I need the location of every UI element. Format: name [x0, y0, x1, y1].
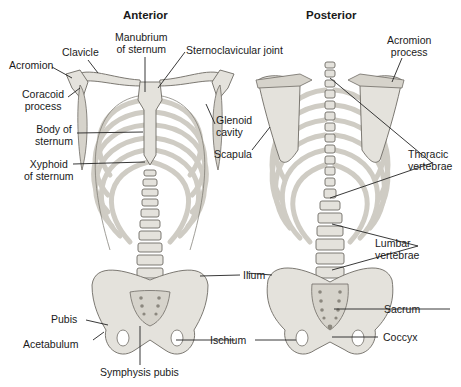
- label-body-sternum-line1: Body of: [35, 123, 73, 135]
- right-scapula: [360, 76, 402, 163]
- label-manubrium-line2: of sternum: [115, 43, 168, 55]
- label-thoracic-line2: vertebrae: [408, 160, 452, 172]
- label-acromion: Acromion: [9, 59, 53, 71]
- anterior-skeleton: [66, 70, 234, 354]
- label-scapula: Scapula: [214, 148, 252, 160]
- label-acromion-process-line1: Acromion: [387, 34, 431, 46]
- label-lumbar-line2: vertebrae: [375, 249, 419, 261]
- label-glenoid-line2: cavity: [216, 126, 252, 138]
- label-xyphoid-line2: of sternum: [24, 170, 74, 182]
- label-symphysis-pubis: Symphysis pubis: [100, 366, 179, 378]
- label-clavicle: Clavicle: [62, 46, 99, 58]
- label-lumbar-line1: Lumbar: [375, 237, 419, 249]
- label-glenoid-line1: Glenoid: [216, 114, 252, 126]
- label-xyphoid-line1: Xyphoid: [24, 158, 74, 170]
- left-scapula: [258, 76, 300, 163]
- anterior-spine: [137, 170, 163, 278]
- label-coccyx: Coccyx: [383, 331, 417, 343]
- label-xyphoid: Xyphoid of sternum: [24, 158, 74, 182]
- skeleton-illustration: [0, 0, 461, 387]
- label-ilium: Ilium: [243, 269, 265, 281]
- label-glenoid-cavity: Glenoid cavity: [216, 114, 252, 138]
- label-acetabulum: Acetabulum: [23, 338, 78, 350]
- label-body-sternum-line2: sternum: [35, 135, 73, 147]
- label-manubrium-line1: Manubrium: [115, 31, 168, 43]
- label-thoracic-line1: Thoracic: [408, 148, 452, 160]
- label-lumbar-vertebrae: Lumbar vertebrae: [375, 237, 419, 261]
- posterior-title: Posterior: [306, 9, 357, 21]
- label-body-of-sternum: Body of sternum: [35, 123, 73, 147]
- label-pubis: Pubis: [51, 313, 77, 325]
- label-ischium: Ischium: [210, 334, 246, 346]
- label-coracoid-line2: process: [22, 100, 64, 112]
- label-acromion-process: Acromion process: [387, 34, 431, 58]
- label-coracoid-process: Coracoid process: [22, 88, 64, 112]
- label-coracoid-line1: Coracoid: [22, 88, 64, 100]
- posterior-spine: [316, 62, 344, 278]
- anterior-title: Anterior: [123, 9, 168, 21]
- label-thoracic-vertebrae: Thoracic vertebrae: [408, 148, 452, 172]
- label-manubrium: Manubrium of sternum: [115, 31, 168, 55]
- label-acromion-process-line2: process: [387, 46, 431, 58]
- posterior-skeleton: [256, 62, 404, 354]
- label-sternoclavicular-joint: Sternoclavicular joint: [186, 44, 283, 56]
- label-sacrum: Sacrum: [384, 303, 420, 315]
